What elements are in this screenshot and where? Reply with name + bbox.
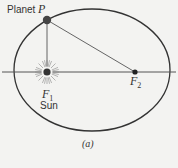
planet-label: Planet	[7, 5, 35, 15]
focus2-label: F2	[130, 75, 141, 90]
sun-icon	[43, 68, 50, 75]
line-p-f2	[47, 20, 135, 72]
sun-label: Sun	[40, 101, 58, 111]
planet-icon	[43, 16, 51, 24]
figure-caption: (a)	[82, 139, 94, 149]
point-p-label: P	[38, 3, 45, 15]
focus2-subscript: 2	[137, 81, 141, 90]
